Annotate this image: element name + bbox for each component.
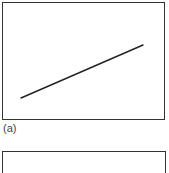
- panel-a-label: (a): [3, 122, 16, 134]
- panel-b-frame: [2, 151, 166, 173]
- panel-a-line-plot: [0, 0, 169, 173]
- diagonal-line: [21, 45, 143, 98]
